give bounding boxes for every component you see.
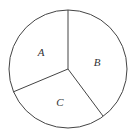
sector-label-a: A	[37, 46, 45, 58]
pie-diagram: A B C	[0, 0, 132, 134]
boundary-a-c	[13, 69, 68, 92]
boundary-b-c	[68, 69, 103, 116]
sector-label-c: C	[56, 96, 64, 108]
sector-label-b: B	[94, 56, 101, 68]
